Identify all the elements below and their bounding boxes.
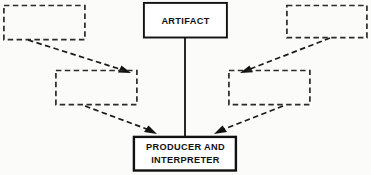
arrowhead-top-right-to-mid-right [240, 66, 253, 74]
diagram-canvas: ARTIFACT PRODUCER AND INTERPRETER [0, 0, 371, 175]
arrowhead-top-left-to-mid-left [118, 66, 131, 74]
connector-mid-left-to-producer [85, 106, 152, 131]
connector-top-left-to-mid-left [28, 40, 126, 71]
arrowhead-mid-left-to-producer [144, 126, 157, 135]
node-box-top-right[interactable] [287, 6, 367, 38]
connector-mid-right-to-producer [219, 106, 283, 131]
node-label-producer-line-1: PRODUCER AND [146, 142, 225, 152]
node-label-artifact: ARTIFACT [161, 16, 209, 26]
connector-top-right-to-mid-right [245, 38, 330, 71]
node-box-top-left[interactable] [4, 6, 85, 40]
arrowhead-mid-right-to-producer [214, 126, 227, 135]
node-box-mid-right[interactable] [229, 71, 310, 105]
node-label-producer-line-2: INTERPRETER [151, 155, 220, 165]
node-box-mid-left[interactable] [56, 71, 137, 105]
diagram-svg: ARTIFACT PRODUCER AND INTERPRETER [0, 0, 371, 175]
